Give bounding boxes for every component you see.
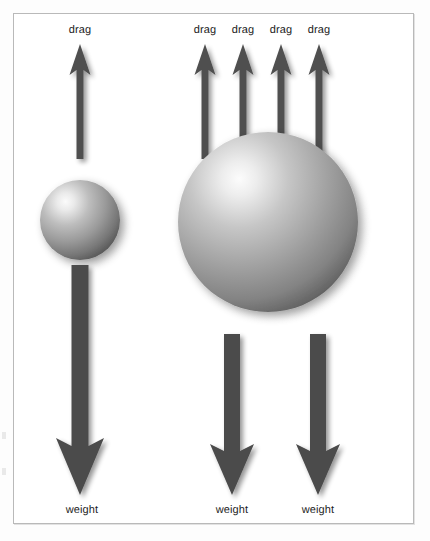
physics-diagram-figure: drag drag drag drag drag weight weight w… (0, 0, 430, 541)
weight-arrow-down-icon (296, 334, 340, 495)
weight-label-large-sphere-1: weight (216, 504, 248, 516)
weight-label-small-sphere: weight (66, 504, 98, 516)
drag-label-small-sphere: drag (69, 24, 91, 36)
large-sphere-group (176, 44, 372, 495)
large-sphere (178, 132, 358, 312)
weight-arrow-down-icon (210, 334, 254, 495)
small-sphere-group (38, 44, 130, 495)
drag-label-large-sphere-4: drag (308, 24, 330, 36)
drag-label-large-sphere-3: drag (270, 24, 292, 36)
weight-arrow-down-icon (56, 265, 104, 495)
drag-label-large-sphere-1: drag (194, 24, 216, 36)
drag-arrow-up-icon (195, 44, 216, 159)
diagram-canvas (0, 0, 430, 541)
drag-arrow-up-icon (70, 44, 91, 159)
small-sphere (40, 180, 120, 260)
drag-label-large-sphere-2: drag (232, 24, 254, 36)
weight-label-large-sphere-2: weight (302, 504, 334, 516)
